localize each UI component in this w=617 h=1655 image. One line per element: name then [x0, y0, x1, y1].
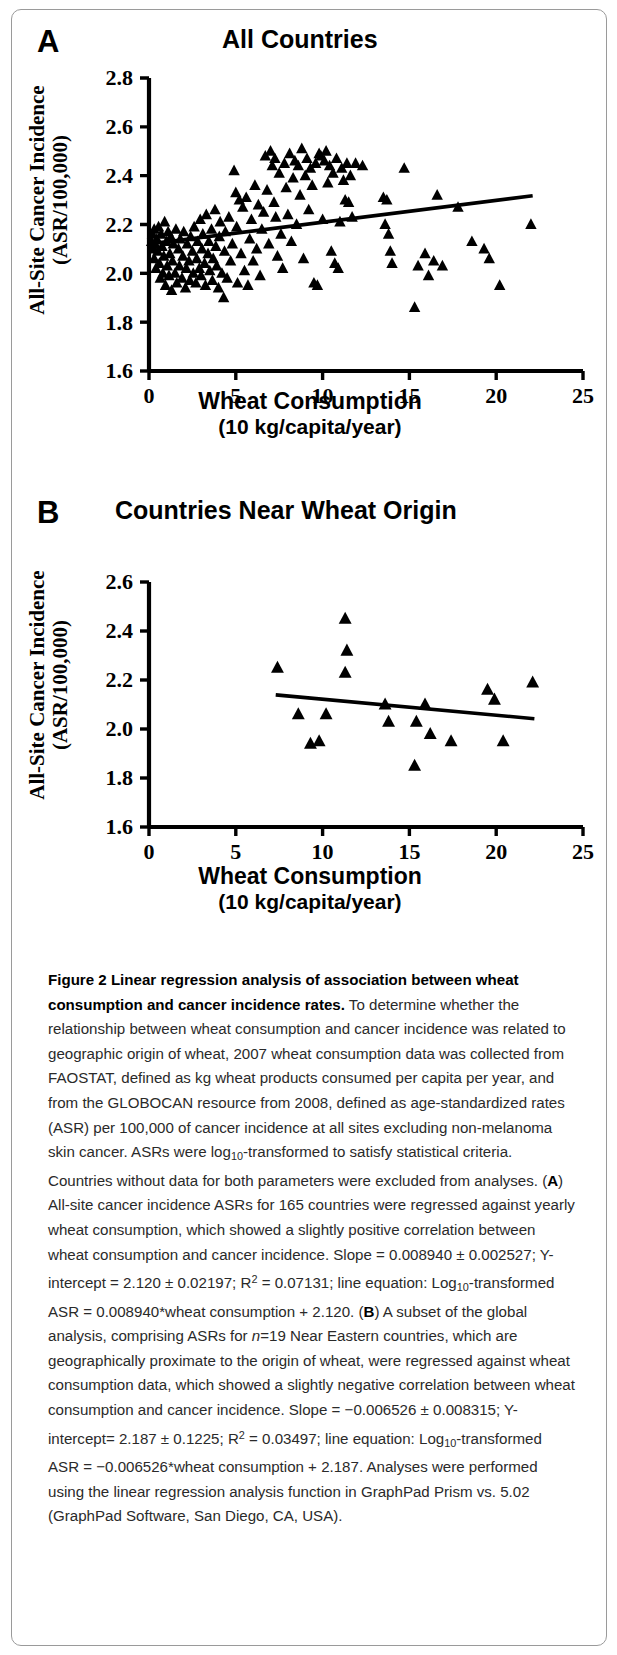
y-tick-label: 2.2: [106, 667, 134, 692]
data-point-marker: [268, 196, 279, 207]
panel-b-plot: 1.61.82.02.22.42.60510152025: [12, 475, 607, 865]
x-tick-label: 5: [230, 839, 241, 864]
data-point-marker: [159, 216, 170, 227]
y-tick-label: 2.6: [106, 114, 134, 139]
data-point-marker: [322, 177, 333, 188]
data-point-marker: [282, 209, 293, 220]
x-tick-label: 10: [312, 839, 334, 864]
data-point-marker: [220, 226, 231, 237]
panel-b-x-axis-label-line2: (10 kg/capita/year): [12, 889, 607, 915]
caption-body-8: = 0.03497; line equation: Log: [245, 1430, 444, 1447]
y-tick-label: 2.6: [106, 569, 134, 594]
data-point-marker: [484, 252, 495, 263]
data-point-marker: [246, 213, 257, 224]
data-point-marker: [280, 182, 291, 193]
data-point-marker: [270, 211, 281, 222]
data-point-marker: [419, 698, 432, 710]
figure-card: A All Countries All-Site Cancer Incidenc…: [11, 9, 607, 1646]
data-point-marker: [218, 292, 229, 303]
data-point-marker: [385, 245, 396, 256]
data-point-marker: [526, 675, 539, 687]
caption-body-4: = 0.07131; line equation: Log: [257, 1274, 456, 1291]
data-point-marker: [298, 252, 309, 263]
data-point-marker: [249, 179, 260, 190]
data-point-marker: [431, 189, 442, 200]
data-point-marker: [231, 221, 242, 232]
panel-a-x-axis-label-line2: (10 kg/capita/year): [12, 414, 607, 440]
data-point-marker: [497, 734, 510, 746]
data-point-marker: [317, 213, 328, 224]
panel-b: B Countries Near Wheat Origin All-Site C…: [12, 475, 607, 955]
data-point-marker: [478, 243, 489, 254]
data-point-marker: [286, 235, 297, 246]
data-point-marker: [339, 612, 352, 624]
data-point-marker: [412, 260, 423, 271]
panel-b-x-axis-label: Wheat Consumption (10 kg/capita/year): [12, 863, 607, 915]
data-point-marker: [225, 255, 236, 266]
data-point-marker: [294, 189, 305, 200]
y-tick-label: 2.0: [106, 716, 134, 741]
caption-sub-10-c: 10: [444, 1437, 456, 1449]
y-tick-label: 2.2: [106, 212, 134, 237]
data-point-marker: [207, 274, 218, 285]
y-tick-label: 1.6: [106, 814, 134, 839]
data-point-marker: [272, 250, 283, 261]
data-point-marker: [494, 279, 505, 290]
panel-a: A All Countries All-Site Cancer Incidenc…: [12, 10, 607, 475]
data-point-marker: [287, 172, 298, 183]
data-point-marker: [386, 257, 397, 268]
x-tick-label: 15: [398, 839, 420, 864]
y-tick-label: 2.8: [106, 65, 134, 90]
data-point-marker: [424, 727, 437, 739]
y-tick-label: 2.4: [106, 618, 134, 643]
data-point-marker: [306, 179, 317, 190]
data-point-marker: [303, 204, 314, 215]
data-point-marker: [253, 199, 264, 210]
data-point-marker: [481, 683, 494, 695]
data-point-marker: [409, 301, 420, 312]
data-point-marker: [340, 644, 353, 656]
data-point-marker: [223, 211, 234, 222]
data-point-marker: [209, 204, 220, 215]
data-point-marker: [279, 157, 290, 168]
caption-bold-b: B: [364, 1303, 375, 1320]
data-point-marker: [277, 262, 288, 273]
data-point-marker: [383, 228, 394, 239]
data-point-marker: [525, 218, 536, 229]
data-point-marker: [241, 191, 252, 202]
data-point-marker: [408, 759, 421, 771]
caption-sub-10-b: 10: [457, 1281, 469, 1293]
caption-body-1: To determine whether the relationship be…: [48, 996, 566, 1161]
y-tick-label: 1.6: [106, 358, 134, 383]
data-point-marker: [320, 145, 331, 156]
data-point-marker: [242, 279, 253, 290]
data-point-marker: [227, 238, 238, 249]
data-point-marker: [445, 734, 458, 746]
data-point-marker: [244, 233, 255, 244]
data-point-marker: [232, 277, 243, 288]
panel-b-x-axis-label-line1: Wheat Consumption: [12, 863, 607, 889]
caption-bold-a: A: [547, 1172, 558, 1189]
data-point-marker: [271, 661, 284, 673]
data-point-marker: [254, 270, 265, 281]
data-point-marker: [313, 734, 326, 746]
x-tick-label: 0: [144, 839, 155, 864]
data-point-marker: [382, 715, 395, 727]
data-point-marker: [379, 218, 390, 229]
panel-a-plot: 1.61.82.02.22.42.62.80510152025: [12, 10, 607, 410]
y-tick-label: 1.8: [106, 765, 134, 790]
caption-sub-10-a: 10: [231, 1150, 243, 1162]
data-point-marker: [261, 184, 272, 195]
y-tick-label: 2.0: [106, 261, 134, 286]
data-point-marker: [339, 666, 352, 678]
caption-italic-n: n: [252, 1327, 260, 1344]
data-point-marker: [331, 152, 342, 163]
data-point-marker: [170, 223, 181, 234]
data-point-marker: [235, 248, 246, 259]
x-tick-label: 20: [485, 839, 507, 864]
data-point-marker: [247, 255, 258, 266]
data-point-marker: [423, 270, 434, 281]
data-point-marker: [466, 235, 477, 246]
panel-a-x-axis-label: Wheat Consumption (10 kg/capita/year): [12, 388, 607, 440]
data-point-marker: [398, 162, 409, 173]
